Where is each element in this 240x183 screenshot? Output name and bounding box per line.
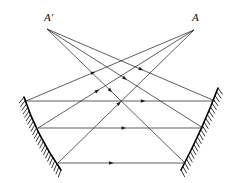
right-mirror-hatch <box>218 88 223 94</box>
horizontal-ray-arrowhead <box>109 161 114 164</box>
left-mirror-hatch <box>28 118 32 125</box>
left-mirror-hatch <box>58 170 61 177</box>
right-mirror-hatch <box>207 115 211 122</box>
left-mirror-hatch <box>32 128 36 135</box>
diagonal-ray <box>47 29 215 101</box>
left-mirror-hatch <box>54 164 57 171</box>
left-concave-mirror <box>19 97 61 177</box>
diagonal-ray-arrowhead <box>122 76 127 80</box>
right-mirror-hatch <box>211 107 215 114</box>
right-mirror-hatch <box>206 118 210 125</box>
left-mirror-hatch <box>29 121 33 128</box>
left-mirror-hatch <box>25 111 29 117</box>
right-mirror-hatch <box>202 126 206 133</box>
diagonal-ray-arrowhead <box>138 67 143 70</box>
optics-ray-diagram: A′ A <box>0 0 240 183</box>
left-mirror-hatch <box>23 108 28 114</box>
left-mirror-hatch <box>19 97 24 103</box>
ray-diagram-canvas <box>0 0 240 183</box>
right-mirror-hatch <box>197 137 201 144</box>
left-mirror-hatch <box>43 148 46 155</box>
right-mirror-hatch <box>194 144 198 151</box>
right-mirror-hatch <box>192 148 196 155</box>
left-mirror-hatch <box>31 125 35 132</box>
horizontal-ray-arrowhead <box>122 126 127 129</box>
right-mirror-hatch <box>199 133 203 140</box>
left-mirror-hatch <box>56 167 59 174</box>
right-mirror-hatch <box>190 152 194 159</box>
right-mirror-hatch <box>217 92 222 98</box>
diagonal-ray <box>58 30 194 163</box>
right-mirror-hatch <box>187 159 191 166</box>
right-mirror-hatch <box>201 130 205 137</box>
left-mirror-surface <box>24 97 61 170</box>
right-mirror-hatch <box>185 163 189 170</box>
right-mirror-hatch <box>196 141 200 148</box>
ray-arrowheads-layer <box>90 67 145 165</box>
diagonal-ray <box>47 29 185 163</box>
left-mirror-hatch <box>47 154 50 161</box>
left-mirror-hatch <box>52 161 55 168</box>
horizontal-ray-arrowhead <box>141 99 146 102</box>
right-mirror-hatch <box>188 155 192 162</box>
diagonal-ray-arrowhead <box>90 72 95 75</box>
right-mirror-hatch <box>204 122 208 129</box>
right-mirror-hatch <box>215 96 220 102</box>
right-mirror-hatch <box>212 103 216 110</box>
diagonal-ray-arrowhead <box>94 90 99 94</box>
left-mirror-hatch <box>22 104 27 110</box>
left-mirror-hatch <box>20 101 25 107</box>
left-mirror-hatch <box>40 141 44 148</box>
left-mirror-hatch <box>45 151 48 158</box>
right-mirror-surface <box>181 88 218 170</box>
left-mirror-hatch <box>42 145 46 152</box>
left-mirror-hatch <box>38 138 42 145</box>
right-mirror-hatch <box>181 170 185 177</box>
point-label-a: A <box>192 12 199 23</box>
diagonal-ray <box>38 30 194 128</box>
right-mirror-hatch <box>209 111 213 118</box>
right-mirror-hatch <box>183 166 187 173</box>
rays-layer <box>26 29 215 163</box>
left-mirror-hatch <box>34 132 38 139</box>
left-mirror-hatch <box>26 115 30 122</box>
left-mirror-hatch <box>50 158 53 165</box>
left-mirror-hatch <box>36 135 40 142</box>
point-label-a-prime: A′ <box>44 12 53 23</box>
